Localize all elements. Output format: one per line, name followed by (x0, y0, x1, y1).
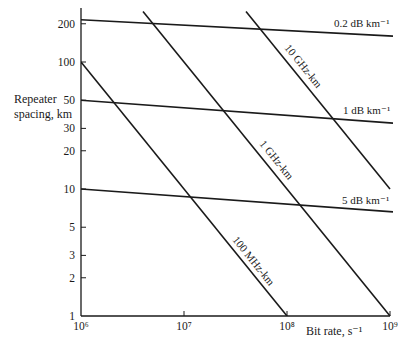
y-axis-label-line1: Repeater (14, 92, 72, 107)
y-tick-label: 2 (69, 272, 75, 284)
y-tick-label: 3 (69, 249, 75, 261)
x-axis-label: Bit rate, s⁻¹ (306, 324, 362, 339)
y-tick-label: 200 (58, 18, 76, 30)
series-line (81, 62, 287, 316)
y-tick-label: 30 (64, 122, 76, 134)
y-tick-label: 20 (64, 145, 76, 157)
x-tick-label: 10⁷ (176, 320, 192, 332)
y-tick-label: 10 (64, 183, 76, 195)
axes: 12351020305010020010⁶10⁷10⁸10⁹ (58, 8, 398, 332)
chart-canvas: 12351020305010020010⁶10⁷10⁸10⁹ 0.2 dB km… (0, 0, 407, 346)
label-5-db: 5 dB km⁻¹ (342, 194, 389, 206)
x-tick-label: 10⁸ (279, 320, 295, 332)
x-tick-label: 10⁶ (73, 320, 89, 332)
label-0-2-db: 0.2 dB km⁻¹ (334, 17, 389, 29)
series-line (246, 11, 390, 189)
line-labels: 0.2 dB km⁻¹1 dB km⁻¹5 dB km⁻¹10 GHz-km1 … (230, 17, 390, 288)
y-axis-label: Repeater spacing, km (14, 92, 72, 122)
y-axis-label-line2: spacing, km (14, 107, 72, 122)
y-tick-label: 100 (58, 56, 76, 68)
label-1-db: 1 dB km⁻¹ (343, 104, 390, 116)
y-tick-label: 5 (69, 221, 75, 233)
data-lines (81, 11, 393, 316)
x-tick-label: 10⁹ (382, 320, 398, 332)
label-100-mhz-km: 100 MHz-km (230, 234, 277, 288)
